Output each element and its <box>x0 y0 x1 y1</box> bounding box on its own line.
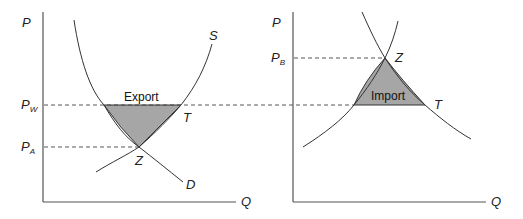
export-area <box>104 105 181 147</box>
left-panel: P Q PW PA S D Z T Export <box>21 12 354 209</box>
diagram-canvas: P Q PW PA S D Z T Export P Q <box>0 0 523 219</box>
right-panel: P Q PB Z T Import <box>271 12 501 209</box>
right-y-axis-label: P <box>272 15 281 30</box>
trade-diagram: P Q PW PA S D Z T Export P Q <box>0 0 523 219</box>
pw-label: PW <box>21 97 39 114</box>
right-x-axis-label: Q <box>491 194 501 209</box>
import-label: Import <box>371 89 406 103</box>
pa-label: PA <box>21 139 35 156</box>
pb-label: PB <box>271 50 286 67</box>
left-point-t: T <box>183 110 192 125</box>
left-y-axis-label: P <box>22 15 31 30</box>
demand-label: D <box>186 177 195 192</box>
left-point-z: Z <box>134 153 144 168</box>
left-x-axis-label: Q <box>241 194 251 209</box>
export-label: Export <box>124 90 159 104</box>
supply-label: S <box>209 28 218 43</box>
right-point-z: Z <box>394 50 404 65</box>
right-point-t: T <box>434 97 443 112</box>
